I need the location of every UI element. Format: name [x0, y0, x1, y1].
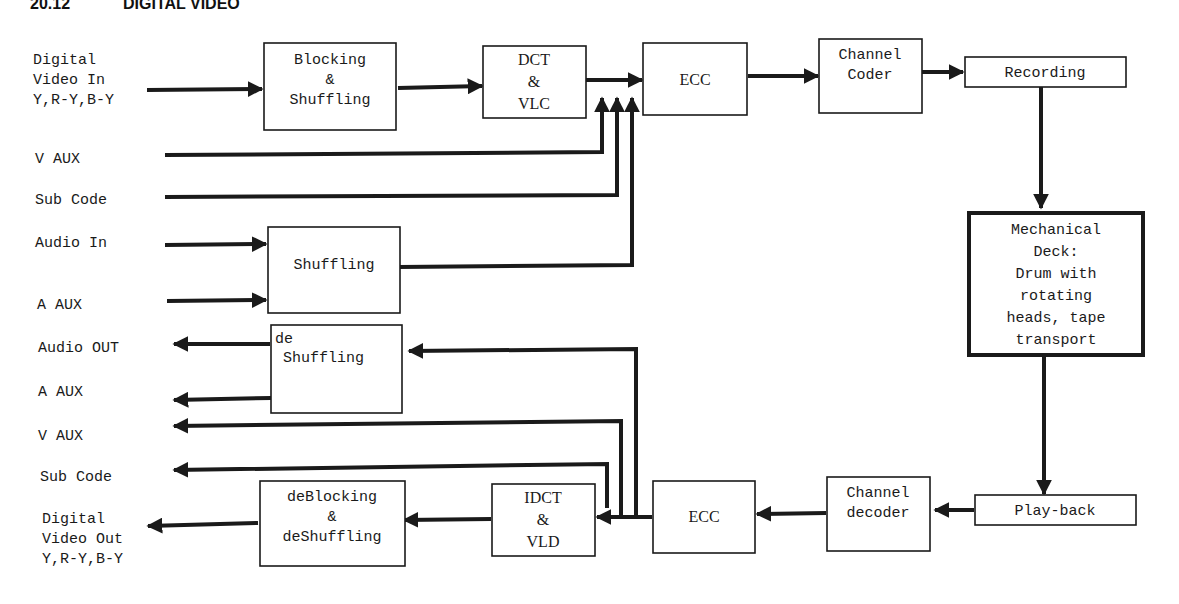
block-playback: Play-back	[975, 495, 1136, 525]
arrow-to-dct	[398, 86, 482, 88]
label-sub-code-out: Sub Code	[40, 469, 112, 486]
svg-text:&: &	[325, 72, 334, 89]
svg-text:Coder: Coder	[847, 67, 892, 84]
label-a-aux-in: A AUX	[37, 297, 82, 314]
svg-text:Blocking: Blocking	[294, 52, 366, 69]
block-ecc-playback: ECC	[653, 481, 755, 553]
svg-text:ECC: ECC	[688, 508, 719, 525]
arrow-a-aux-in	[167, 300, 266, 301]
svg-text:Mechanical: Mechanical	[1011, 222, 1101, 239]
svg-text:Drum with: Drum with	[1015, 266, 1096, 283]
block-recording: Recording	[965, 57, 1126, 87]
svg-text:Channel: Channel	[838, 47, 901, 64]
svg-text:rotating: rotating	[1020, 288, 1092, 305]
label-audio-in: Audio In	[35, 235, 107, 252]
output-labels: Audio OUT A AUX V AUX Sub Code Digital V…	[38, 340, 123, 568]
label-video-in-1: Digital	[33, 52, 96, 69]
svg-text:deShuffling: deShuffling	[282, 529, 381, 546]
label-video-out-2: Video Out	[42, 531, 123, 548]
svg-text:&: &	[327, 509, 336, 526]
wire-audio-shuffled	[399, 98, 632, 267]
arrow-to-ecc-playback	[757, 513, 826, 514]
svg-text:decoder: decoder	[846, 505, 909, 522]
svg-text:DCT: DCT	[518, 51, 550, 68]
label-video-out-1: Digital	[42, 511, 105, 528]
section-title: DIGITAL VIDEO	[123, 0, 240, 12]
arrow-to-deblocking	[404, 519, 491, 520]
arrow-a-aux-out	[174, 398, 271, 400]
block-dct-vlc: DCT & VLC	[483, 46, 586, 118]
svg-text:transport: transport	[1015, 332, 1096, 349]
dvc-block-diagram: 20.12 DIGITAL VIDEO Digital Video In Y,R…	[0, 0, 1179, 604]
label-v-aux-out: V AUX	[38, 428, 83, 445]
label-audio-out: Audio OUT	[38, 340, 119, 357]
svg-text:deBlocking: deBlocking	[287, 489, 377, 506]
svg-text:Shuffling: Shuffling	[283, 350, 364, 367]
svg-text:IDCT: IDCT	[524, 489, 562, 506]
block-channel-coder: Channel Coder	[819, 39, 922, 113]
svg-text:VLD: VLD	[527, 533, 560, 550]
block-idct-vld: IDCT & VLD	[492, 484, 595, 556]
label-video-in-3: Y,R-Y,B-Y	[33, 92, 114, 109]
svg-text:Deck:: Deck:	[1033, 244, 1078, 261]
arrow-video-out	[148, 523, 258, 526]
svg-text:de: de	[275, 331, 293, 348]
label-sub-code-in: Sub Code	[35, 192, 107, 209]
block-deblocking-deshuffling: deBlocking & deShuffling	[260, 481, 405, 566]
page-header: 20.12 DIGITAL VIDEO	[30, 0, 240, 12]
svg-text:ECC: ECC	[679, 71, 710, 88]
block-channel-decoder: Channel decoder	[827, 477, 930, 551]
svg-text:Shuffling: Shuffling	[293, 257, 374, 274]
block-audio-shuffling: Shuffling	[268, 227, 400, 313]
svg-text:Recording: Recording	[1004, 65, 1085, 82]
svg-text:VLC: VLC	[518, 95, 550, 112]
block-mechanical-deck: Mechanical Deck: Drum with rotating head…	[969, 213, 1143, 355]
label-v-aux-in: V AUX	[35, 151, 80, 168]
label-video-in-2: Video In	[33, 72, 105, 89]
label-video-out-3: Y,R-Y,B-Y	[42, 551, 123, 568]
arrow-audio-in	[165, 244, 266, 245]
block-audio-deshuffling: de Shuffling	[271, 325, 402, 413]
svg-text:Channel: Channel	[846, 485, 909, 502]
svg-text:Shuffling: Shuffling	[289, 92, 370, 109]
label-a-aux-out: A AUX	[38, 384, 83, 401]
svg-text:&: &	[537, 511, 550, 528]
block-ecc-record: ECC	[643, 43, 747, 115]
svg-text:heads, tape: heads, tape	[1006, 310, 1105, 327]
svg-text:Play-back: Play-back	[1014, 503, 1095, 520]
arrow-video-in	[147, 89, 262, 90]
input-labels: Digital Video In Y,R-Y,B-Y V AUX Sub Cod…	[33, 52, 114, 314]
section-number: 20.12	[30, 0, 70, 12]
svg-text:&: &	[528, 73, 541, 90]
block-blocking-shuffling: Blocking & Shuffling	[264, 43, 396, 130]
